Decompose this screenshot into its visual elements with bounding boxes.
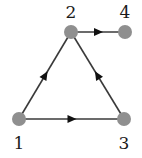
arrowhead-icon (94, 28, 103, 36)
arrowhead-icon (91, 69, 103, 81)
node-label-3: 3 (119, 133, 130, 153)
arrowhead-icon (40, 69, 51, 81)
directed-graph: 1234 (0, 0, 142, 158)
node-3 (117, 112, 131, 126)
node-label-4: 4 (120, 2, 131, 22)
arrows-layer (40, 28, 103, 123)
edges-layer (19, 32, 125, 119)
node-4 (118, 25, 132, 39)
node-label-1: 1 (14, 133, 25, 153)
node-1 (12, 112, 26, 126)
node-label-2: 2 (66, 2, 77, 22)
labels-layer: 1234 (14, 2, 131, 153)
arrowhead-icon (68, 115, 77, 123)
node-2 (64, 25, 78, 39)
nodes-layer (12, 25, 132, 126)
